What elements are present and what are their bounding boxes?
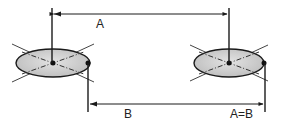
dimension-a-arrowhead-left-icon xyxy=(54,12,61,17)
label-a: A xyxy=(96,18,104,30)
dimension-a xyxy=(54,12,227,17)
diagram-canvas: A B A=B xyxy=(0,0,281,125)
right-disc xyxy=(190,8,268,112)
label-b: B xyxy=(124,108,132,120)
dimension-b xyxy=(90,102,263,107)
label-a-equals-b: A=B xyxy=(230,108,253,120)
left-disc-center-dot xyxy=(51,61,56,66)
right-disc-edge-dot xyxy=(262,61,267,66)
left-disc xyxy=(12,8,94,112)
dimension-b-arrowhead-left-icon xyxy=(90,102,97,107)
